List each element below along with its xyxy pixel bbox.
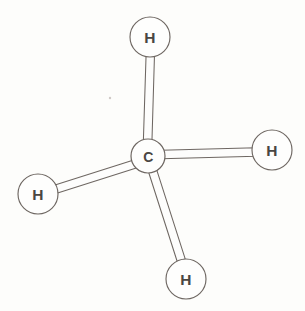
atom-carbon-center: C <box>131 139 165 173</box>
atom-label-hydrogen-top: H <box>144 29 155 46</box>
atom-label-hydrogen-bottom: H <box>180 271 191 288</box>
atom-hydrogen-left: H <box>18 174 58 214</box>
molecule-diagram: H H H H C <box>0 0 305 311</box>
atom-hydrogen-right: H <box>252 130 292 170</box>
atom-label-hydrogen-right: H <box>266 142 277 159</box>
molecule-canvas: H H H H C <box>0 0 305 311</box>
atom-label-hydrogen-left: H <box>32 186 43 203</box>
atom-hydrogen-bottom: H <box>166 259 206 299</box>
atom-label-carbon: C <box>143 149 153 165</box>
atom-hydrogen-top: H <box>130 17 170 57</box>
scan-speck-artifact <box>109 97 111 99</box>
